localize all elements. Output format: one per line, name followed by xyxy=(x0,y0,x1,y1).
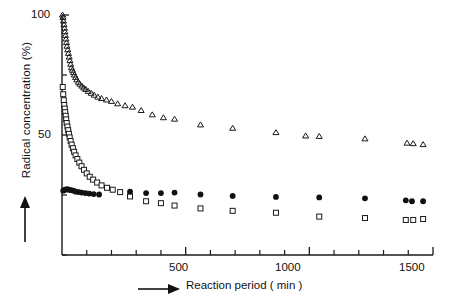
data-point-circle xyxy=(143,190,149,196)
data-point-square xyxy=(118,190,123,195)
right-arrow-icon xyxy=(138,282,180,296)
data-point-square xyxy=(317,214,322,219)
data-point-square xyxy=(144,199,149,204)
data-point-triangle xyxy=(273,130,279,135)
data-point-square xyxy=(61,98,66,103)
data-point-square xyxy=(99,183,104,188)
data-point-square xyxy=(362,216,367,221)
data-point-triangle xyxy=(149,112,155,117)
axis-lines xyxy=(62,15,433,255)
data-point-square xyxy=(198,206,203,211)
y-tick-label-50: 50 xyxy=(38,128,51,140)
data-point-triangle xyxy=(404,140,410,145)
data-point-triangle xyxy=(122,103,128,108)
data-point-square xyxy=(172,203,177,208)
data-point-circle xyxy=(362,195,368,201)
data-point-square xyxy=(60,85,65,90)
data-point-circle xyxy=(198,192,204,198)
data-point-circle xyxy=(91,191,97,197)
x-tick-label-1000: 1000 xyxy=(275,261,301,273)
data-point-square xyxy=(273,210,278,215)
data-point-circle xyxy=(158,190,164,196)
data-point-triangle xyxy=(362,136,368,141)
open-triangle-series xyxy=(59,12,426,147)
data-point-triangle xyxy=(316,133,322,138)
data-point-circle xyxy=(403,197,409,203)
x-tick-label-500: 500 xyxy=(169,261,188,273)
data-point-circle xyxy=(316,195,322,201)
data-point-circle xyxy=(230,193,236,199)
data-point-square xyxy=(403,217,408,222)
data-point-circle xyxy=(96,192,102,198)
data-point-triangle xyxy=(138,108,144,113)
data-point-square xyxy=(61,92,66,97)
data-point-circle xyxy=(172,190,178,196)
up-arrow-icon xyxy=(18,196,32,242)
data-point-circle xyxy=(409,198,415,204)
x-axis-title-text: Reaction period ( min ) xyxy=(186,279,302,291)
x-axis-ticks xyxy=(87,247,433,255)
data-point-square xyxy=(421,217,426,222)
data-point-square xyxy=(105,185,110,190)
data-point-square xyxy=(110,187,115,192)
y-axis-title-text: Radical concentration (%) xyxy=(20,42,32,179)
data-point-triangle xyxy=(115,101,121,106)
data-point-square xyxy=(411,217,416,222)
data-point-circle xyxy=(127,189,133,195)
data-point-triangle xyxy=(230,125,236,130)
figure-container: Radical concentration (%) Reaction perio… xyxy=(0,0,457,306)
data-point-circle xyxy=(420,198,426,204)
data-point-triangle xyxy=(129,104,135,109)
x-tick-label-1500: 1500 xyxy=(399,261,425,273)
data-point-triangle xyxy=(172,116,178,121)
chart-canvas xyxy=(0,0,457,306)
data-point-triangle xyxy=(303,133,309,138)
data-point-triangle xyxy=(410,141,416,146)
y-tick-label-100: 100 xyxy=(31,8,50,20)
data-point-square xyxy=(128,194,133,199)
data-point-square xyxy=(230,208,235,213)
data-point-triangle xyxy=(197,122,203,127)
y-axis-title: Radical concentration (%) xyxy=(16,0,36,220)
data-point-square xyxy=(158,201,163,206)
data-point-triangle xyxy=(160,115,166,120)
data-point-triangle xyxy=(420,142,426,147)
data-point-circle xyxy=(273,194,279,200)
